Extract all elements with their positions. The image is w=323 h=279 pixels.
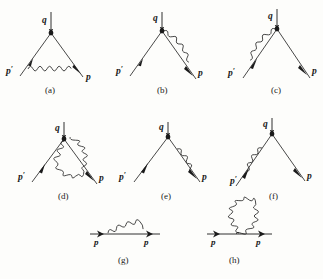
label-q-c: q <box>268 11 273 21</box>
label-p-d: p <box>98 173 104 183</box>
label-q-a: q <box>42 15 47 25</box>
page-background <box>0 0 323 279</box>
feynman-diagram-figure: p′ p q (a) p′ p q (b) p′ p q (c) <box>0 0 323 279</box>
caption-g: (g) <box>118 255 129 265</box>
caption-a: (a) <box>45 85 55 95</box>
caption-e: (e) <box>161 191 171 201</box>
caption-c: (c) <box>271 85 281 95</box>
caption-f: (f) <box>269 191 278 201</box>
label-p-f: p <box>306 171 312 181</box>
label-p-a: p <box>85 72 91 82</box>
caption-b: (b) <box>157 85 168 95</box>
diagram-canvas: p′ p q (a) p′ p q (b) p′ p q (c) <box>0 0 323 279</box>
caption-d: (d) <box>58 191 69 201</box>
label-p-right-g: p <box>143 237 149 247</box>
label-p-left-g: p <box>93 237 99 247</box>
caption-h: (h) <box>229 255 240 265</box>
label-q-f: q <box>263 119 268 129</box>
label-q-d: q <box>55 123 60 133</box>
label-p-e: p <box>201 172 207 182</box>
label-p-c: p <box>311 66 317 76</box>
label-q-e: q <box>159 122 164 132</box>
label-p-right-h: p <box>255 237 261 247</box>
label-p-left-h: p <box>210 237 216 247</box>
label-p-b: p <box>197 68 203 78</box>
label-q-b: q <box>153 13 158 23</box>
